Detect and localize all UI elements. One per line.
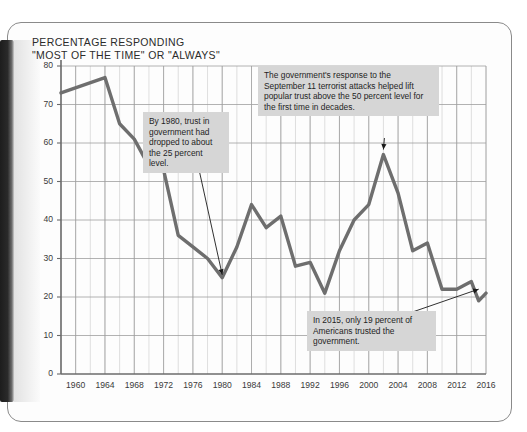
y-axis-tick-60: 60 bbox=[31, 137, 53, 147]
x-axis-tick-2016: 2016 bbox=[469, 380, 503, 390]
annotation-2015: In 2015, only 19 percent of Americans tr… bbox=[307, 311, 436, 351]
y-axis-tick-0: 0 bbox=[31, 368, 53, 378]
y-axis-tick-80: 80 bbox=[31, 60, 53, 70]
y-axis-tick-40: 40 bbox=[31, 214, 53, 224]
y-axis-tick-10: 10 bbox=[31, 330, 53, 340]
annotation-1980: By 1980, trust in government had dropped… bbox=[143, 112, 229, 173]
y-axis-tick-30: 30 bbox=[31, 253, 53, 263]
annotation-leader-lines bbox=[198, 138, 479, 326]
annotation-september-11: The government's response to the Septemb… bbox=[258, 66, 439, 116]
y-axis-tick-20: 20 bbox=[31, 291, 53, 301]
chart-svg bbox=[0, 0, 527, 432]
chart-plot-area: 01020304050607080 1960196419681972197619… bbox=[0, 0, 527, 432]
y-axis-tick-50: 50 bbox=[31, 176, 53, 186]
y-axis-tick-70: 70 bbox=[31, 99, 53, 109]
